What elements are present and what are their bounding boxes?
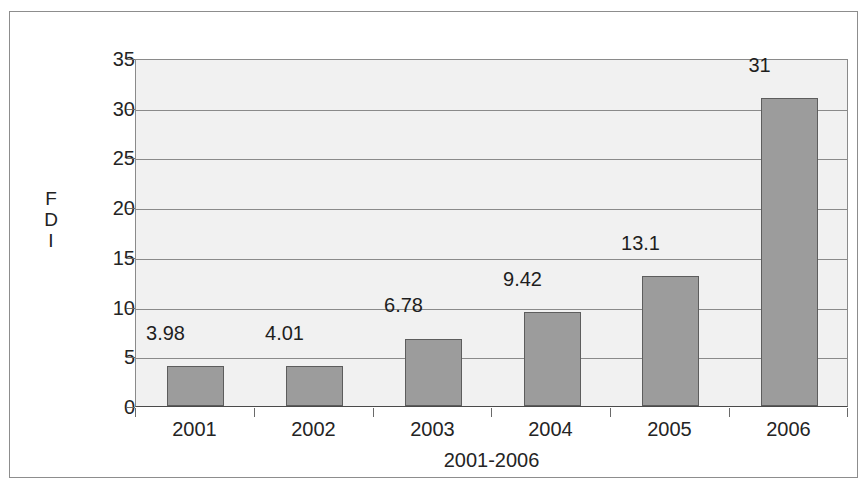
y-axis-title: F D I — [38, 188, 64, 251]
bar-2001[interactable] — [167, 366, 224, 406]
x-tick-mark-6 — [847, 408, 848, 417]
x-label-2002: 2002 — [254, 418, 373, 440]
figure-frame: F D I 0 5 10 15 20 25 30 35 — [9, 11, 858, 478]
y-axis-title-char-2: I — [38, 230, 64, 251]
x-label-2001: 2001 — [135, 418, 254, 440]
gridline-10 — [136, 309, 847, 310]
x-tick-mark-5 — [729, 408, 730, 417]
x-label-2004: 2004 — [491, 418, 610, 440]
y-tick-mark-7 — [126, 59, 135, 60]
x-axis-labels: 2001 2002 2003 2004 2005 2006 — [135, 418, 848, 446]
y-tick-mark-5 — [126, 158, 135, 159]
bar-2004[interactable] — [524, 312, 581, 406]
x-label-2006: 2006 — [729, 418, 848, 440]
x-tick-mark-0 — [135, 408, 136, 417]
gridline-20 — [136, 209, 847, 210]
y-axis-title-char-1: D — [38, 209, 64, 230]
y-tick-mark-2 — [126, 308, 135, 309]
bar-value-2001: 3.98 — [137, 323, 194, 343]
bar-value-2006: 31 — [731, 55, 788, 75]
x-axis-ticks — [135, 408, 848, 418]
x-tick-mark-2 — [373, 408, 374, 417]
bar-2005[interactable] — [642, 276, 699, 406]
x-label-2003: 2003 — [373, 418, 492, 440]
gridline-5 — [136, 358, 847, 359]
x-tick-mark-3 — [491, 408, 492, 417]
gridline-30 — [136, 110, 847, 111]
bar-2006[interactable] — [761, 98, 818, 406]
gridline-15 — [136, 259, 847, 260]
y-tick-mark-4 — [126, 208, 135, 209]
y-tick-mark-3 — [126, 258, 135, 259]
y-tick-mark-1 — [126, 357, 135, 358]
bar-value-2004: 9.42 — [494, 269, 551, 289]
bar-value-2005: 13.1 — [612, 233, 669, 253]
y-axis-title-char-0: F — [38, 188, 64, 209]
bar-2002[interactable] — [286, 366, 343, 406]
bar-value-2003: 6.78 — [375, 295, 432, 315]
x-axis-title: 2001-2006 — [135, 449, 848, 471]
x-tick-mark-4 — [610, 408, 611, 417]
chart-page: F D I 0 5 10 15 20 25 30 35 — [0, 0, 868, 491]
x-tick-mark-1 — [254, 408, 255, 417]
y-axis-ticks: 0 5 10 15 20 25 30 35 — [67, 59, 135, 407]
x-label-2005: 2005 — [610, 418, 729, 440]
bar-2003[interactable] — [405, 339, 462, 406]
gridline-25 — [136, 159, 847, 160]
y-tick-mark-0 — [126, 407, 135, 408]
bar-value-2002: 4.01 — [256, 323, 313, 343]
plot-area — [135, 59, 848, 407]
y-tick-mark-6 — [126, 109, 135, 110]
